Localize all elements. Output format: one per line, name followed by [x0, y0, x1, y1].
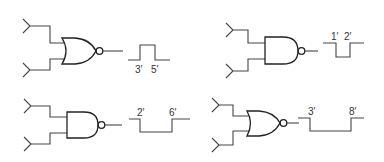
panel-bottom-left: 2′ 6′	[24, 99, 190, 151]
time-label: 8′	[349, 106, 357, 117]
nor-gate-icon	[247, 111, 280, 136]
panel-top-right: 1′ 2′	[226, 23, 364, 78]
input-fork-icon	[226, 23, 265, 43]
nor-gate-icon	[62, 38, 96, 64]
waveform-pulse	[128, 45, 170, 60]
waveform-pulse	[298, 118, 364, 131]
input-fork-icon	[23, 59, 67, 77]
waveform-pulse	[129, 119, 190, 132]
nand-gate-icon	[67, 112, 98, 138]
input-fork-icon	[23, 19, 67, 43]
waveform-pulse	[323, 43, 364, 57]
time-label: 3′	[135, 64, 143, 75]
time-label: 2′	[137, 107, 145, 118]
nand-gate-icon	[265, 37, 298, 64]
input-fork-icon	[226, 59, 265, 78]
time-label: 1′	[331, 31, 339, 42]
time-label: 2′	[344, 31, 352, 42]
time-label: 5′	[151, 64, 159, 75]
input-fork-icon	[24, 133, 67, 151]
logic-gates-diagram: 3′ 5′ 1′ 2′ 2′ 6′	[0, 0, 384, 162]
inverter-bubble-icon	[280, 120, 287, 127]
inverter-bubble-icon	[298, 48, 305, 55]
inverter-bubble-icon	[96, 48, 103, 55]
panel-bottom-right: 3′ 8′	[212, 98, 364, 152]
input-fork-icon	[24, 99, 67, 117]
input-fork-icon	[212, 98, 250, 116]
time-label: 6′	[169, 107, 177, 118]
inverter-bubble-icon	[98, 122, 105, 129]
panel-top-left: 3′ 5′	[23, 19, 170, 77]
input-fork-icon	[212, 131, 250, 152]
time-label: 3′	[308, 106, 316, 117]
